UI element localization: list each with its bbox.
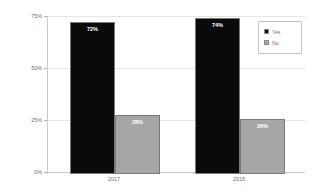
x-axis-labels: 2017 2015 <box>47 176 305 188</box>
gray-square-icon <box>264 40 269 45</box>
bar-label-2017-yes: 72% <box>71 26 114 32</box>
bar-2017-yes: 72% <box>70 22 115 174</box>
y-tick-label-50: 50% <box>0 65 42 71</box>
x-tick-label-2017: 2017 <box>69 176 159 182</box>
legend-item-no: No <box>264 37 301 48</box>
black-square-icon <box>264 29 269 34</box>
legend-label-yes: Yes <box>272 29 280 35</box>
bar-label-2015-no: 26% <box>241 123 284 129</box>
y-tick-label-25: 25% <box>0 117 42 123</box>
y-tick-label-0: 0% <box>0 169 42 175</box>
y-tick-mark-25 <box>44 120 47 121</box>
y-tick-mark-0 <box>44 172 47 173</box>
x-tick-label-2015: 2015 <box>194 176 284 182</box>
bar-2015-no: 26% <box>240 119 285 174</box>
y-tick-mark-50 <box>44 68 47 69</box>
legend: Yes No <box>258 21 302 54</box>
bar-2015-yes: 74% <box>195 18 240 174</box>
legend-label-no: No <box>272 40 279 46</box>
bar-2017-no: 28% <box>115 115 160 174</box>
bar-label-2017-no: 28% <box>116 119 159 125</box>
bar-label-2015-yes: 74% <box>196 22 239 28</box>
legend-item-yes: Yes <box>264 26 301 37</box>
y-tick-label-75: 75% <box>0 13 42 19</box>
gridline-75 <box>48 16 305 17</box>
y-tick-mark-75 <box>44 16 47 17</box>
bar-chart: Percent of respondents 72% 28% 74% 26% <box>0 0 315 195</box>
